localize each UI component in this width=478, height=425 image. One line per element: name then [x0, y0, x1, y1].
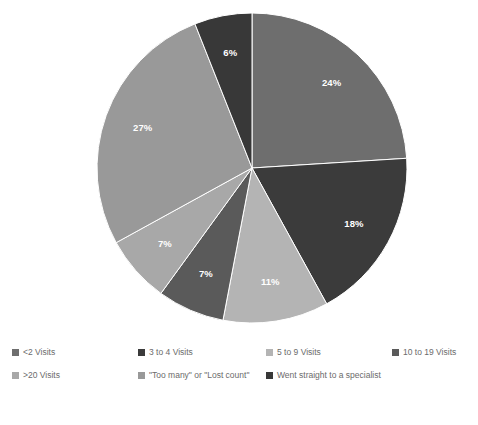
legend-swatch-icon [138, 349, 145, 356]
legend-item[interactable]: 10 to 19 Visits [392, 343, 456, 361]
pie-slice-label: 24% [322, 77, 342, 88]
legend-item-label: <2 Visits [23, 347, 55, 358]
legend-swatch-icon [12, 349, 19, 356]
legend-item[interactable]: "Too many" or "Lost count" [138, 366, 249, 384]
legend-item[interactable]: <2 Visits [12, 343, 55, 361]
pie-svg: 24%18%11%7%7%27%6% [0, 0, 478, 336]
legend-item[interactable]: Went straight to a specialist [266, 366, 381, 384]
legend-swatch-icon [266, 349, 273, 356]
legend-item-label: 10 to 19 Visits [403, 347, 456, 358]
pie-slice-label: 27% [133, 122, 153, 133]
legend-row-2: >20 Visits"Too many" or "Lost count"Went… [0, 366, 478, 389]
legend-item[interactable]: 3 to 4 Visits [138, 343, 193, 361]
pie-plot-area: 24%18%11%7%7%27%6% [0, 0, 478, 336]
pie-slice[interactable] [252, 13, 407, 168]
legend-row-1: <2 Visits3 to 4 Visits5 to 9 Visits10 to… [0, 343, 478, 366]
pie-slice-label: 7% [158, 238, 172, 249]
legend-swatch-icon [12, 372, 19, 379]
pie-slice-label: 18% [344, 218, 364, 229]
legend-swatch-icon [392, 349, 399, 356]
chart-legend: <2 Visits3 to 4 Visits5 to 9 Visits10 to… [0, 340, 478, 390]
pie-slice-label: 11% [261, 276, 280, 287]
pie-slice-label: 7% [199, 268, 213, 279]
legend-swatch-icon [266, 372, 273, 379]
pie-slice-label: 6% [223, 47, 237, 58]
legend-item[interactable]: >20 Visits [12, 366, 60, 384]
legend-item-label: >20 Visits [23, 370, 60, 381]
legend-item-label: 5 to 9 Visits [277, 347, 321, 358]
legend-item[interactable]: 5 to 9 Visits [266, 343, 321, 361]
legend-item-label: Went straight to a specialist [277, 370, 381, 381]
pie-chart-figure: 24%18%11%7%7%27%6% <2 Visits3 to 4 Visit… [0, 0, 478, 425]
legend-swatch-icon [138, 372, 145, 379]
legend-item-label: 3 to 4 Visits [149, 347, 193, 358]
legend-item-label: "Too many" or "Lost count" [149, 370, 249, 381]
